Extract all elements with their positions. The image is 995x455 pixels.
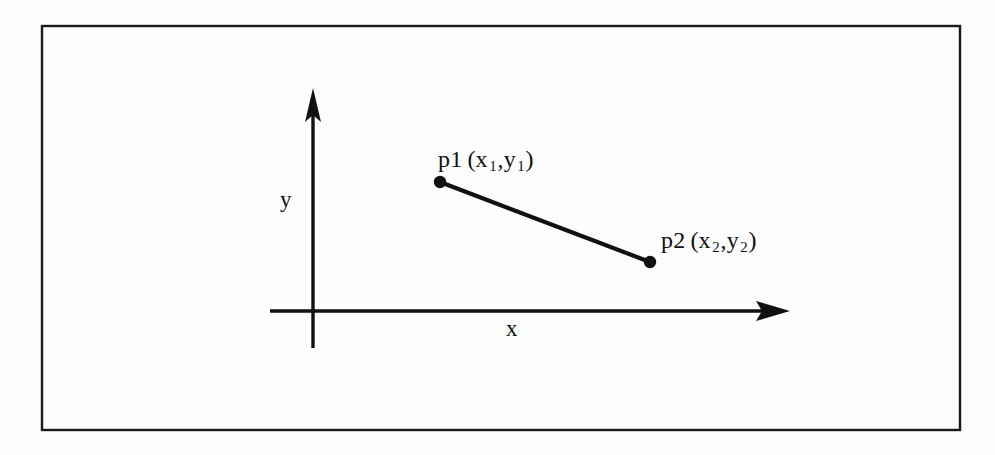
point-label-p2-y-subscript: 2 bbox=[740, 239, 748, 255]
y-axis-label: y bbox=[280, 188, 292, 211]
point-label-p1-name: p1 bbox=[438, 146, 462, 172]
point-label-p2-x-symbol: x bbox=[699, 227, 711, 253]
point-label-p2-name: p2 bbox=[661, 227, 685, 253]
point-label-p1-y-symbol: y bbox=[504, 146, 516, 172]
point-label-p1-open-paren: ( bbox=[467, 146, 475, 172]
point-label-p2: p2(x2,y2) bbox=[661, 228, 757, 255]
point-label-p1: p1(x1,y1) bbox=[438, 147, 534, 174]
point-marker-p2 bbox=[644, 256, 656, 268]
point-label-p1-close-paren: ) bbox=[526, 146, 534, 172]
point-label-p2-x-subscript: 2 bbox=[712, 239, 720, 255]
point-label-p1-x-subscript: 1 bbox=[489, 158, 497, 174]
line-segment-p1-p2 bbox=[440, 182, 650, 262]
point-label-p1-x-symbol: x bbox=[476, 146, 488, 172]
diagram-vector-layer bbox=[0, 0, 995, 455]
diagram-canvas: y x p1(x1,y1) p2(x2,y2) bbox=[0, 0, 995, 455]
point-marker-p1 bbox=[434, 176, 446, 188]
point-label-p2-open-paren: ( bbox=[690, 227, 698, 253]
point-label-p2-y-symbol: y bbox=[727, 227, 739, 253]
point-label-p1-y-subscript: 1 bbox=[517, 158, 525, 174]
figure-border bbox=[42, 26, 960, 430]
point-label-p2-close-paren: ) bbox=[749, 227, 757, 253]
x-axis-label: x bbox=[506, 317, 518, 340]
